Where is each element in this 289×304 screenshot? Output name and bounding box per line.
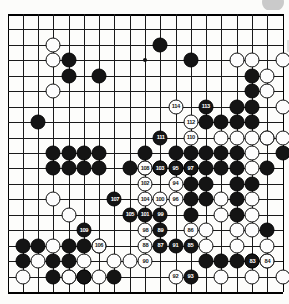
black-stone[interactable]: [76, 146, 91, 161]
move-marker-104[interactable]: 104: [138, 192, 153, 207]
black-stone[interactable]: [260, 223, 275, 238]
move-marker-96[interactable]: 96: [168, 192, 183, 207]
white-stone[interactable]: [46, 53, 61, 68]
black-stone[interactable]: [15, 238, 30, 253]
black-stone[interactable]: [199, 115, 214, 130]
white-stone[interactable]: [244, 269, 259, 284]
white-stone[interactable]: [275, 99, 289, 114]
black-stone[interactable]: [244, 84, 259, 99]
black-stone[interactable]: [61, 161, 76, 176]
move-marker-107[interactable]: 107: [107, 192, 122, 207]
black-stone[interactable]: [92, 146, 107, 161]
move-marker-84[interactable]: 84: [260, 254, 275, 269]
black-stone[interactable]: [214, 146, 229, 161]
white-stone[interactable]: [214, 269, 229, 284]
white-stone[interactable]: [199, 223, 214, 238]
white-stone[interactable]: [260, 238, 275, 253]
black-stone[interactable]: [229, 176, 244, 191]
black-stone[interactable]: [183, 176, 198, 191]
white-stone[interactable]: [61, 269, 76, 284]
black-stone[interactable]: [46, 146, 61, 161]
black-stone[interactable]: [229, 192, 244, 207]
black-stone[interactable]: [244, 176, 259, 191]
move-marker-106[interactable]: 106: [92, 238, 107, 253]
white-stone[interactable]: [244, 161, 259, 176]
black-stone[interactable]: [138, 146, 153, 161]
white-stone[interactable]: [46, 84, 61, 99]
black-stone[interactable]: [229, 115, 244, 130]
white-stone[interactable]: [229, 53, 244, 68]
black-stone[interactable]: [214, 254, 229, 269]
black-stone[interactable]: [229, 146, 244, 161]
white-stone[interactable]: [229, 130, 244, 145]
black-stone[interactable]: [153, 37, 168, 52]
black-stone[interactable]: [183, 146, 198, 161]
black-stone[interactable]: [183, 192, 198, 207]
black-stone[interactable]: [76, 238, 91, 253]
black-stone[interactable]: [92, 68, 107, 83]
black-stone[interactable]: [260, 161, 275, 176]
black-stone[interactable]: [46, 161, 61, 176]
go-board[interactable]: 8384858687888990919293949596979899100101…: [3, 10, 287, 296]
black-stone[interactable]: [244, 115, 259, 130]
white-stone[interactable]: [107, 254, 122, 269]
move-marker-85[interactable]: 85: [183, 238, 198, 253]
move-marker-108[interactable]: 108: [138, 161, 153, 176]
black-stone[interactable]: [199, 254, 214, 269]
white-stone[interactable]: [122, 254, 137, 269]
move-marker-110[interactable]: 110: [183, 130, 198, 145]
white-stone[interactable]: [229, 223, 244, 238]
move-marker-100[interactable]: 100: [153, 192, 168, 207]
white-stone[interactable]: [260, 130, 275, 145]
black-stone[interactable]: [61, 146, 76, 161]
white-stone[interactable]: [275, 130, 289, 145]
white-stone[interactable]: [229, 238, 244, 253]
white-stone[interactable]: [31, 254, 46, 269]
move-marker-83[interactable]: 83: [244, 254, 259, 269]
black-stone[interactable]: [122, 161, 137, 176]
white-stone[interactable]: [214, 130, 229, 145]
move-marker-88[interactable]: 88: [138, 238, 153, 253]
move-marker-102[interactable]: 102: [138, 176, 153, 191]
move-marker-111[interactable]: 111: [153, 130, 168, 145]
black-stone[interactable]: [107, 269, 122, 284]
move-marker-90[interactable]: 90: [138, 254, 153, 269]
black-stone[interactable]: [61, 53, 76, 68]
move-marker-112[interactable]: 112: [183, 115, 198, 130]
white-stone[interactable]: [244, 207, 259, 222]
move-marker-92[interactable]: 92: [168, 269, 183, 284]
white-stone[interactable]: [61, 207, 76, 222]
white-stone[interactable]: [214, 207, 229, 222]
black-stone[interactable]: [199, 161, 214, 176]
move-marker-89[interactable]: 89: [153, 223, 168, 238]
white-stone[interactable]: [46, 37, 61, 52]
black-stone[interactable]: [214, 161, 229, 176]
black-stone[interactable]: [61, 254, 76, 269]
black-stone[interactable]: [244, 68, 259, 83]
white-stone[interactable]: [244, 130, 259, 145]
white-stone[interactable]: [244, 53, 259, 68]
white-stone[interactable]: [260, 68, 275, 83]
black-stone[interactable]: [214, 115, 229, 130]
move-marker-86[interactable]: 86: [183, 223, 198, 238]
black-stone[interactable]: [46, 254, 61, 269]
move-marker-94[interactable]: 94: [168, 176, 183, 191]
black-stone[interactable]: [199, 192, 214, 207]
black-stone[interactable]: [46, 269, 61, 284]
white-stone[interactable]: [15, 269, 30, 284]
white-stone[interactable]: [260, 84, 275, 99]
move-marker-101[interactable]: 101: [138, 207, 153, 222]
black-stone[interactable]: [15, 254, 30, 269]
move-marker-91[interactable]: 91: [168, 238, 183, 253]
move-marker-99[interactable]: 99: [153, 207, 168, 222]
move-marker-95[interactable]: 95: [168, 161, 183, 176]
move-marker-113[interactable]: 113: [199, 99, 214, 114]
white-stone[interactable]: [275, 53, 289, 68]
black-stone[interactable]: [183, 53, 198, 68]
move-marker-105[interactable]: 105: [122, 207, 137, 222]
black-stone[interactable]: [168, 146, 183, 161]
black-stone[interactable]: [61, 68, 76, 83]
black-stone[interactable]: [92, 161, 107, 176]
white-stone[interactable]: [199, 238, 214, 253]
white-stone[interactable]: [244, 192, 259, 207]
